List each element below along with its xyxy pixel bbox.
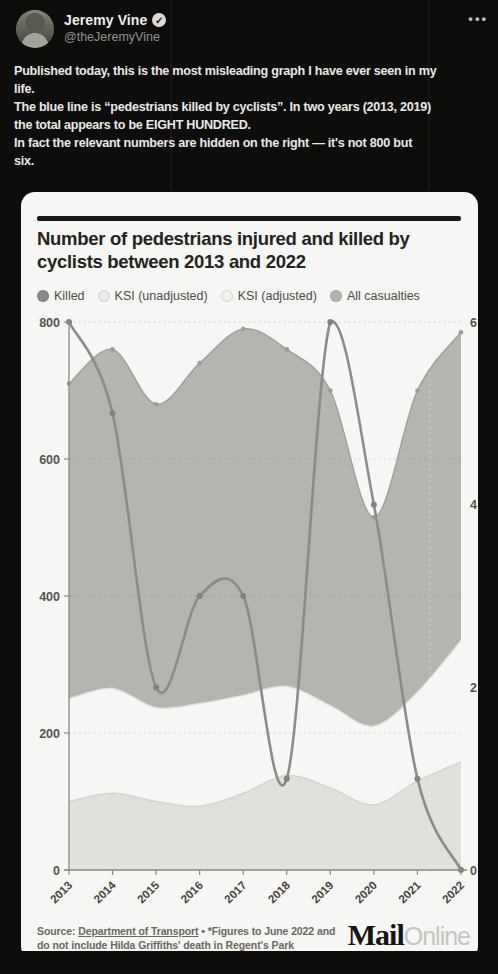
- photo-frame-bottom: [0, 951, 498, 974]
- svg-text:600: 600: [39, 453, 60, 467]
- tweet-text-line: In fact the relevant numbers are hidden …: [14, 134, 496, 152]
- source-note-line1: • *Figures to June 2022 and: [198, 925, 335, 937]
- svg-text:2013: 2013: [48, 879, 75, 906]
- tweet-author-block: Jeremy Vine ✓ @theJeremyVine: [64, 10, 166, 44]
- tweet-text-line: six.: [14, 152, 496, 170]
- svg-text:2021: 2021: [396, 879, 423, 906]
- online-logo-text: Online: [404, 922, 470, 951]
- author-name[interactable]: Jeremy Vine: [64, 12, 147, 28]
- svg-text:2018: 2018: [266, 879, 293, 906]
- svg-text:4: 4: [470, 498, 477, 512]
- tweet-text-line: The blue line is “pedestrians killed by …: [14, 98, 496, 116]
- svg-text:2020: 2020: [353, 879, 380, 906]
- tweet-media-chart-card[interactable]: Number of pedestrians injured and killed…: [21, 192, 478, 960]
- mailonline-logo: MailOnline: [348, 918, 470, 952]
- author-handle[interactable]: @theJeremyVine: [64, 30, 166, 44]
- mail-logo-text: Mail: [348, 918, 404, 952]
- chart-plot: 0200400600800024620132014201520162017201…: [21, 300, 478, 945]
- source-prefix: Source:: [37, 925, 78, 937]
- svg-text:2017: 2017: [222, 879, 249, 906]
- svg-text:0: 0: [53, 864, 60, 878]
- chart-title: Number of pedestrians injured and killed…: [37, 227, 469, 274]
- svg-text:2016: 2016: [178, 879, 205, 906]
- tweet-text-line: life.: [14, 80, 496, 98]
- source-link[interactable]: Department of Transport: [78, 925, 198, 937]
- svg-text:0: 0: [470, 864, 477, 878]
- svg-text:6: 6: [470, 316, 477, 330]
- tweet-text-line: the total appears to be EIGHT HUNDRED.: [14, 116, 496, 134]
- svg-text:2019: 2019: [309, 879, 336, 906]
- tweet-header: Jeremy Vine ✓ @theJeremyVine: [16, 10, 486, 48]
- svg-text:400: 400: [39, 590, 60, 604]
- more-options-icon[interactable]: •••: [468, 14, 488, 24]
- tweet-text: Published today, this is the most mislea…: [14, 62, 496, 170]
- svg-text:800: 800: [39, 316, 60, 330]
- svg-text:2014: 2014: [91, 879, 118, 906]
- svg-text:200: 200: [39, 727, 60, 741]
- svg-text:2015: 2015: [135, 879, 162, 906]
- tweet-text-line: Published today, this is the most mislea…: [14, 62, 496, 80]
- title-rule: [37, 216, 461, 221]
- verified-badge-icon: ✓: [152, 13, 166, 27]
- svg-text:2022: 2022: [440, 879, 467, 906]
- avatar[interactable]: [16, 10, 54, 48]
- source-note: Source: Department of Transport • *Figur…: [37, 924, 359, 952]
- svg-text:2: 2: [470, 681, 477, 695]
